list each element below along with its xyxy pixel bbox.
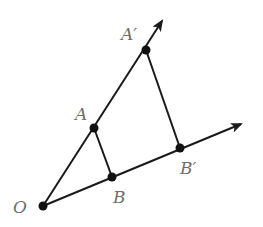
point-o — [39, 202, 48, 211]
label-b: B — [112, 187, 126, 207]
label-a-prime: A′ — [119, 24, 137, 44]
point-b — [108, 173, 117, 182]
label-o: O — [13, 197, 27, 217]
segment-a-prime-b-prime — [146, 50, 180, 148]
label-a: A — [73, 104, 87, 124]
similar-triangles-diagram: O A B A′ B′ — [0, 0, 263, 227]
point-a — [90, 124, 99, 133]
point-a-prime — [142, 46, 151, 55]
label-b-prime: B′ — [179, 158, 196, 178]
point-b-prime — [176, 144, 185, 153]
segment-ab — [94, 128, 112, 177]
ray-ob — [43, 124, 241, 206]
